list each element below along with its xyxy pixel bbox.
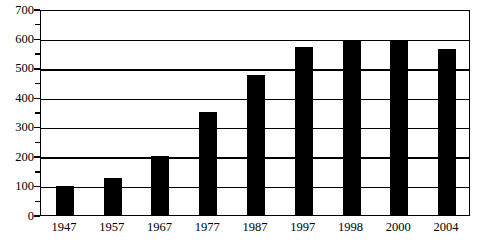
bar-1997 [295, 47, 313, 215]
y-tick-label-100: 100 [0, 180, 34, 193]
x-tick-label-1947: 1947 [51, 220, 76, 234]
x-axis: 194719571967197719871997199820002004 [40, 220, 470, 240]
y-tick-label-0: 0 [0, 210, 34, 223]
x-tick-label-2000: 2000 [386, 220, 411, 234]
bar-1977 [199, 112, 217, 215]
y-axis: 0100200300400500600700 [0, 0, 34, 243]
bar-1957 [104, 178, 122, 215]
bar-1998 [343, 40, 361, 215]
bar-2004 [438, 49, 456, 215]
bar-chart: 0100200300400500600700 19471957196719771… [0, 0, 480, 243]
x-tick-label-1987: 1987 [243, 220, 268, 234]
y-tick-label-200: 200 [0, 151, 34, 164]
y-tick-label-400: 400 [0, 92, 34, 105]
y-tick-label-500: 500 [0, 62, 34, 75]
x-tick-label-1957: 1957 [99, 220, 124, 234]
x-tick-label-1967: 1967 [147, 220, 172, 234]
x-tick-label-1997: 1997 [290, 220, 315, 234]
y-tick-label-300: 300 [0, 121, 34, 134]
y-tick-label-600: 600 [0, 33, 34, 46]
plot-area [40, 10, 470, 216]
bar-2000 [390, 41, 408, 215]
x-tick-label-2004: 2004 [434, 220, 459, 234]
bar-1947 [56, 186, 74, 215]
x-tick-label-1998: 1998 [338, 220, 363, 234]
y-tick-label-700: 700 [0, 4, 34, 17]
bar-1967 [151, 156, 169, 215]
x-tick-label-1977: 1977 [195, 220, 220, 234]
bar-1987 [247, 75, 265, 215]
